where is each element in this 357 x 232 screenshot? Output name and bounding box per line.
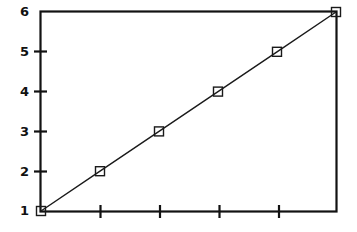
line-chart: 6 5 4 3 2 1	[0, 0, 357, 232]
data-point-marker	[214, 87, 223, 96]
y-tick-label-6: 6	[20, 4, 29, 19]
data-point-marker	[273, 47, 282, 56]
data-point-marker	[332, 8, 341, 17]
data-point-marker	[155, 127, 164, 136]
y-tick-label-3: 3	[20, 124, 29, 139]
y-tick-label-1: 1	[20, 203, 29, 218]
chart-container: 6 5 4 3 2 1	[0, 0, 357, 232]
y-tick-label-2: 2	[20, 164, 29, 179]
y-tick-label-4: 4	[20, 84, 29, 99]
data-point-marker	[96, 167, 105, 176]
data-point-marker	[37, 207, 46, 216]
y-tick-label-5: 5	[20, 44, 29, 59]
